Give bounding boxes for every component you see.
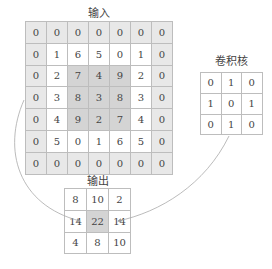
- input-title: 输入: [25, 4, 173, 20]
- input-cell: 1: [131, 43, 152, 65]
- input-cell: 1: [89, 130, 110, 152]
- output-cell: 4: [65, 232, 87, 254]
- input-cell: 5: [47, 130, 68, 152]
- input-row: 0000000: [26, 22, 173, 44]
- input-row: 0383830: [26, 87, 173, 109]
- input-cell: 0: [47, 152, 68, 174]
- input-cell: 6: [68, 43, 89, 65]
- kernel-matrix: 010101010: [200, 72, 263, 135]
- input-cell: 0: [152, 109, 173, 131]
- input-cell: 8: [110, 87, 131, 109]
- input-cell: 0: [26, 152, 47, 174]
- kernel-cell: 1: [201, 93, 222, 114]
- output-title: 输出: [64, 172, 132, 188]
- input-cell: 4: [131, 109, 152, 131]
- output-row: 142214: [65, 210, 131, 232]
- input-cell: 3: [131, 87, 152, 109]
- input-cell: 1: [47, 43, 68, 65]
- input-cell: 0: [68, 130, 89, 152]
- input-cell: 0: [26, 43, 47, 65]
- input-cell: 0: [68, 152, 89, 174]
- output-cell: 10: [87, 189, 109, 211]
- input-cell: 0: [47, 22, 68, 44]
- input-cell: 0: [110, 152, 131, 174]
- kernel-row: 010: [201, 114, 263, 135]
- kernel-cell: 0: [201, 114, 222, 135]
- input-cell: 0: [152, 43, 173, 65]
- output-cell: 14: [65, 210, 87, 232]
- input-cell: 3: [89, 87, 110, 109]
- input-cell: 0: [26, 22, 47, 44]
- input-cell: 3: [47, 87, 68, 109]
- kernel-cell: 1: [242, 93, 263, 114]
- kernel-title: 卷积核: [200, 52, 262, 68]
- output-cell: 22: [87, 210, 109, 232]
- kernel-cell: 0: [221, 93, 242, 114]
- input-row: 0000000: [26, 152, 173, 174]
- output-cell: 10: [109, 232, 131, 254]
- input-cell: 0: [152, 152, 173, 174]
- output-cell: 14: [109, 210, 131, 232]
- input-cell: 0: [131, 22, 152, 44]
- kernel-row: 010: [201, 73, 263, 94]
- input-cell: 0: [26, 130, 47, 152]
- input-cell: 0: [26, 109, 47, 131]
- input-cell: 6: [110, 130, 131, 152]
- input-cell: 0: [110, 22, 131, 44]
- input-cell: 0: [152, 87, 173, 109]
- input-cell: 2: [47, 65, 68, 87]
- input-cell: 0: [89, 22, 110, 44]
- kernel-row: 101: [201, 93, 263, 114]
- input-cell: 0: [110, 43, 131, 65]
- input-cell: 7: [110, 109, 131, 131]
- output-cell: 8: [65, 189, 87, 211]
- input-row: 0165010: [26, 43, 173, 65]
- input-row: 0492740: [26, 109, 173, 131]
- output-row: 8102: [65, 189, 131, 211]
- input-matrix: 0000000016501002749200383830049274005016…: [25, 21, 173, 175]
- kernel-cell: 0: [242, 114, 263, 135]
- output-cell: 8: [87, 232, 109, 254]
- kernel-cell: 0: [201, 73, 222, 94]
- input-cell: 0: [152, 22, 173, 44]
- input-cell: 0: [89, 152, 110, 174]
- input-cell: 2: [89, 109, 110, 131]
- input-cell: 0: [26, 87, 47, 109]
- input-cell: 0: [131, 152, 152, 174]
- kernel-cell: 0: [242, 73, 263, 94]
- input-cell: 7: [68, 65, 89, 87]
- input-cell: 8: [68, 87, 89, 109]
- kernel-cell: 1: [221, 73, 242, 94]
- output-row: 4810: [65, 232, 131, 254]
- input-cell: 2: [131, 65, 152, 87]
- input-cell: 5: [89, 43, 110, 65]
- output-cell: 2: [109, 189, 131, 211]
- input-row: 0501650: [26, 130, 173, 152]
- input-cell: 0: [152, 65, 173, 87]
- input-cell: 4: [89, 65, 110, 87]
- output-matrix: 81021422144810: [64, 188, 131, 254]
- input-cell: 0: [68, 22, 89, 44]
- input-cell: 5: [131, 130, 152, 152]
- input-row: 0274920: [26, 65, 173, 87]
- input-cell: 4: [47, 109, 68, 131]
- input-cell: 0: [26, 65, 47, 87]
- input-cell: 9: [68, 109, 89, 131]
- kernel-cell: 1: [221, 114, 242, 135]
- input-cell: 0: [152, 130, 173, 152]
- input-cell: 9: [110, 65, 131, 87]
